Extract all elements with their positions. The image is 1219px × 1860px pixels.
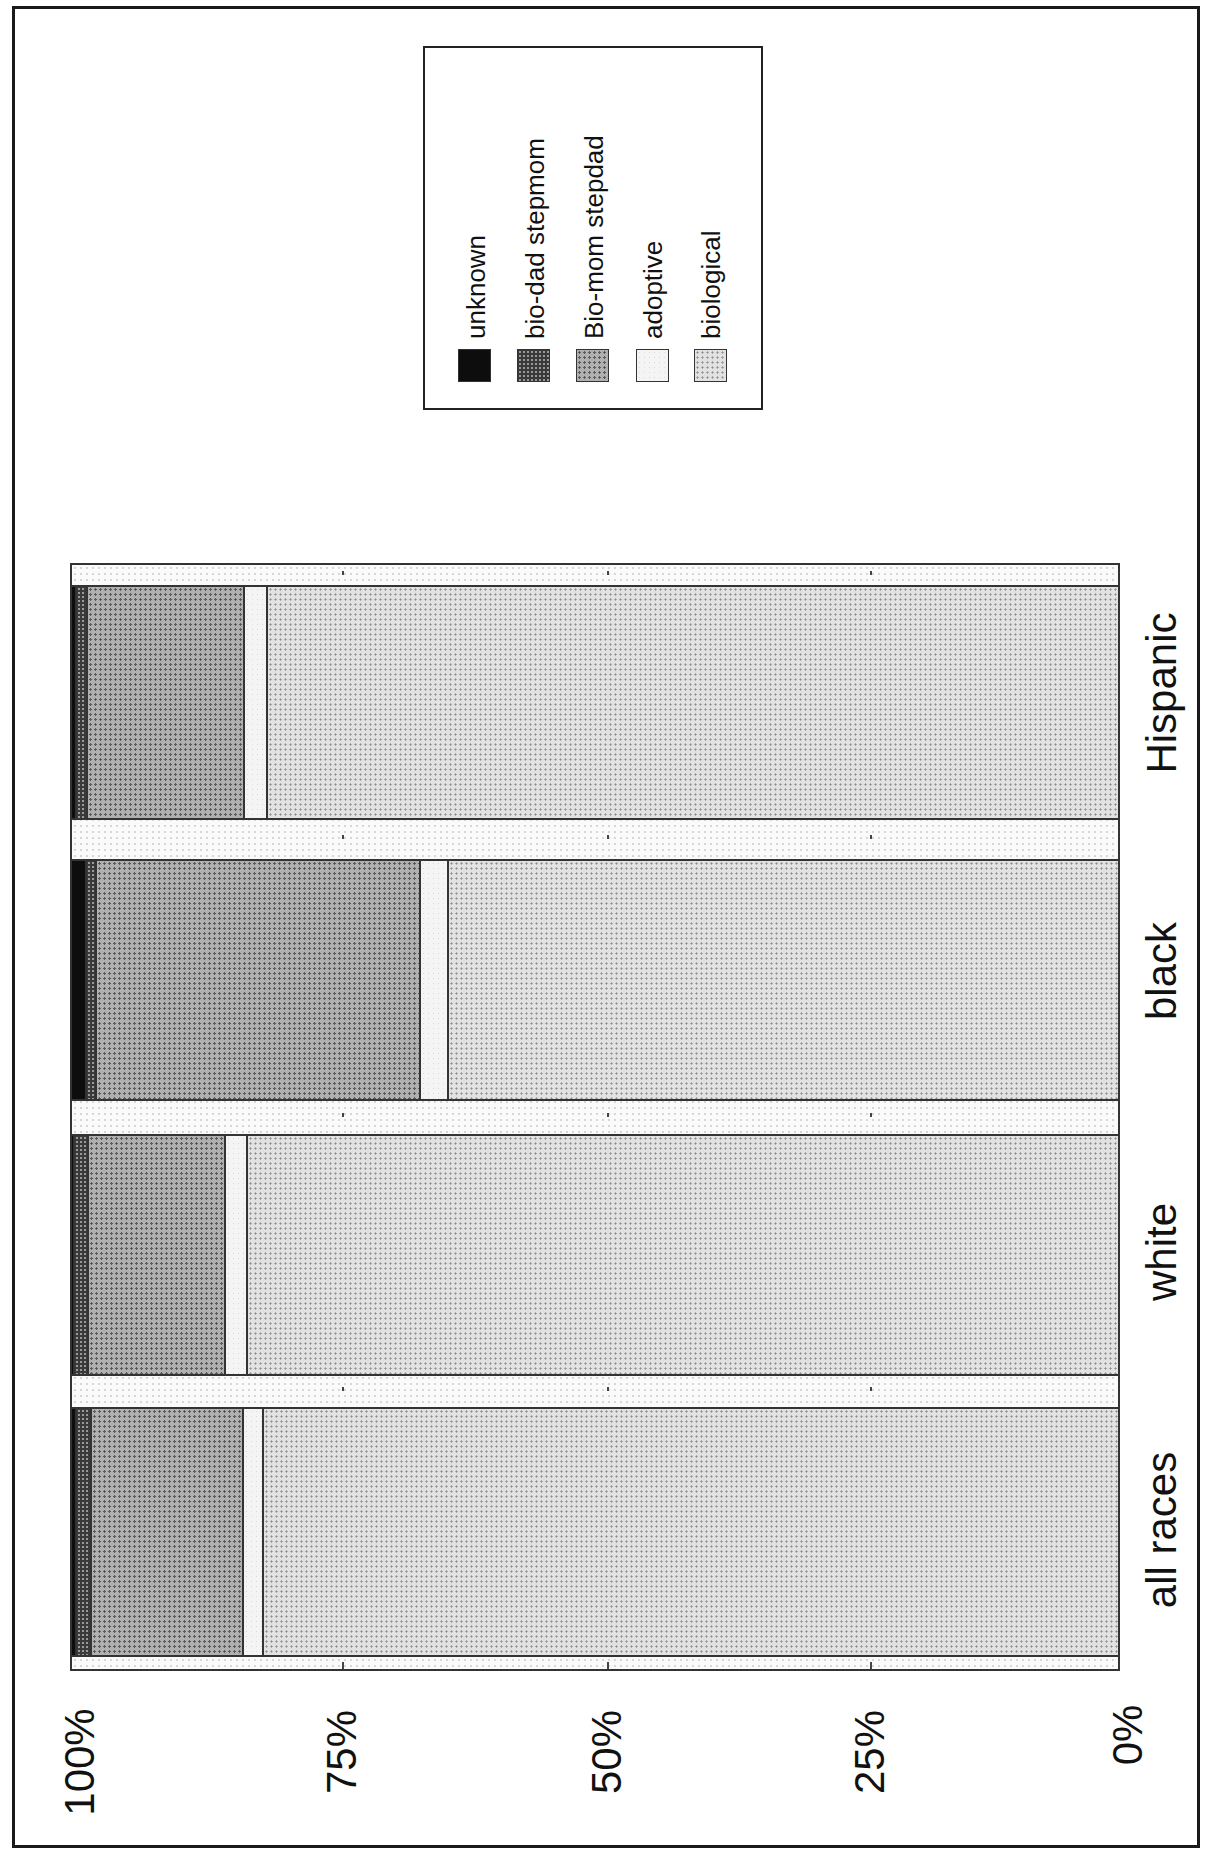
legend-label-adoptive: adoptive <box>638 241 669 339</box>
gap-tick <box>607 1113 609 1117</box>
segment-biological <box>264 1409 1118 1655</box>
gap-tick <box>870 1113 872 1117</box>
segment-adoptive <box>245 587 268 818</box>
axis-tick-50 <box>607 1662 609 1669</box>
segment-biological <box>449 861 1118 1099</box>
legend-label-unknown: unknown <box>461 235 492 339</box>
segment-bio-dad-stepmom <box>77 1409 92 1655</box>
segment-bio-mom-stepdad <box>88 587 245 818</box>
gap-tick <box>607 835 609 839</box>
category-label-white: white <box>1138 1203 1186 1301</box>
segment-bio-dad-stepmom <box>77 587 87 818</box>
segment-unknown <box>72 861 87 1099</box>
segment-biological <box>268 587 1118 818</box>
gap-tick <box>342 1113 344 1117</box>
axis-label-75: 75% <box>318 1710 366 1794</box>
segment-biological <box>248 1136 1118 1374</box>
segment-adoptive <box>226 1136 248 1374</box>
category-label-black: black <box>1138 922 1186 1020</box>
gap-tick <box>342 1387 344 1391</box>
gap-tick <box>342 835 344 839</box>
segment-adoptive <box>244 1409 265 1655</box>
axis-tick-25 <box>870 1662 872 1669</box>
gap-tick <box>870 571 872 575</box>
legend-swatch-bio-mom-stepdad <box>576 349 609 382</box>
gap-tick <box>342 571 344 575</box>
axis-label-50: 50% <box>583 1710 631 1794</box>
segment-bio-mom-stepdad <box>97 861 421 1099</box>
bar-white <box>72 1134 1118 1376</box>
bar-all-races <box>72 1407 1118 1657</box>
gap-tick <box>607 1387 609 1391</box>
segment-bio-mom-stepdad <box>89 1136 226 1374</box>
axis-label-0: 0% <box>1104 1705 1152 1766</box>
bar-black <box>72 859 1118 1101</box>
legend: unknown bio-dad stepmom Bio-mom stepdad … <box>423 46 763 410</box>
gap-tick <box>607 571 609 575</box>
legend-label-bio-dad-stepmom: bio-dad stepmom <box>520 138 551 339</box>
segment-bio-dad-stepmom <box>87 861 97 1099</box>
segment-bio-dad-stepmom <box>75 1136 89 1374</box>
axis-tick-75 <box>342 1662 344 1669</box>
legend-swatch-biological <box>694 349 727 382</box>
legend-label-biological: biological <box>696 231 727 339</box>
axis-label-100: 100% <box>56 1708 104 1815</box>
category-label-all-races: all races <box>1138 1452 1186 1608</box>
segment-bio-mom-stepdad <box>92 1409 244 1655</box>
gap-tick <box>870 835 872 839</box>
plot-area <box>70 563 1120 1671</box>
segment-adoptive <box>421 861 448 1099</box>
gap-tick <box>870 1387 872 1391</box>
legend-label-bio-mom-stepdad: Bio-mom stepdad <box>579 135 610 339</box>
axis-label-25: 25% <box>846 1710 894 1794</box>
legend-swatch-unknown <box>458 349 491 382</box>
category-label-hispanic: Hispanic <box>1138 612 1186 773</box>
legend-swatch-adoptive <box>636 349 669 382</box>
legend-swatch-bio-dad-stepmom <box>517 349 550 382</box>
bar-hispanic <box>72 585 1118 820</box>
